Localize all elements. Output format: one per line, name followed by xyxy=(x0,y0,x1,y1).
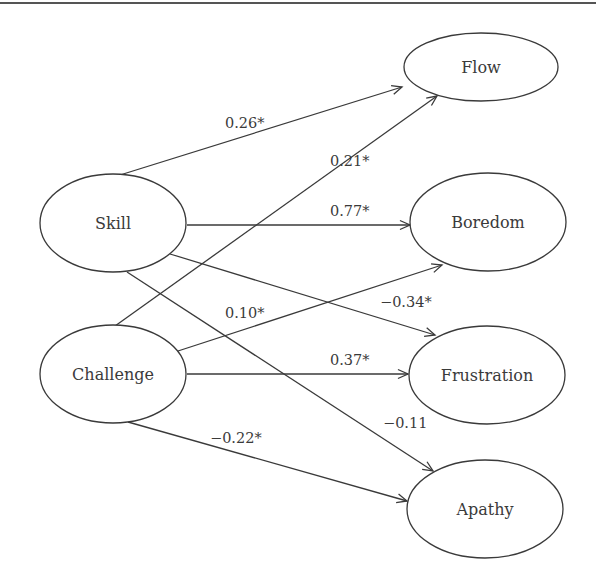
edge-coefficient-label: 0.37* xyxy=(330,352,370,368)
path-diagram: 0.26*0.21*0.77*−0.34*−0.110.10*0.37*−0.2… xyxy=(0,0,596,578)
arrowhead-icon xyxy=(422,462,433,471)
edge-coefficient-label: 0.10* xyxy=(225,305,265,321)
node-boredom: Boredom xyxy=(410,173,566,271)
node-label: Flow xyxy=(461,58,501,77)
node-label: Boredom xyxy=(451,213,525,232)
edge-skill-to-boredom: 0.77* xyxy=(187,203,410,229)
edge-coefficient-label: −0.34* xyxy=(380,294,432,310)
edge-challenge-to-apathy: −0.22* xyxy=(128,422,407,503)
edge-line xyxy=(128,422,407,501)
nodes: SkillChallengeFlowBoredomFrustrationApat… xyxy=(40,33,566,558)
node-label: Skill xyxy=(95,214,131,233)
edge-coefficient-label: 0.77* xyxy=(330,203,370,219)
node-label: Apathy xyxy=(455,500,513,519)
node-label: Frustration xyxy=(441,366,533,385)
edge-challenge-to-frustration: 0.37* xyxy=(187,352,408,378)
edge-coefficient-label: −0.22* xyxy=(210,430,262,446)
edge-coefficient-label: −0.11 xyxy=(383,415,427,431)
edge-skill-to-frustration: −0.34* xyxy=(170,254,435,336)
node-apathy: Apathy xyxy=(407,460,563,558)
node-skill: Skill xyxy=(40,174,186,272)
node-frustration: Frustration xyxy=(409,326,565,424)
edge-coefficient-label: 0.26* xyxy=(225,115,265,131)
node-challenge: Challenge xyxy=(40,325,186,423)
node-label: Challenge xyxy=(72,365,154,384)
node-flow: Flow xyxy=(404,33,558,101)
edge-coefficient-label: 0.21* xyxy=(330,153,370,169)
edges: 0.26*0.21*0.77*−0.34*−0.110.10*0.37*−0.2… xyxy=(115,86,442,503)
